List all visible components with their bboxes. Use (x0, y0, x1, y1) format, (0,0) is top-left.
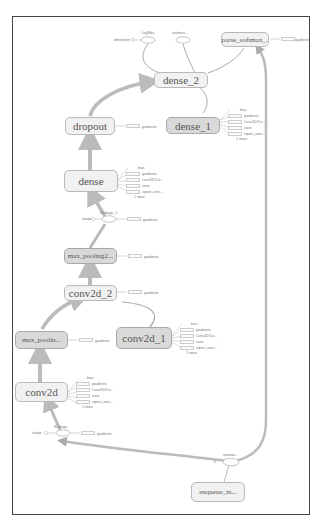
reshape-1-gradients: gradients (143, 218, 157, 222)
random-port: 0 (214, 460, 216, 464)
conv2d-1-report: report_unin... (196, 346, 217, 350)
dense-save: save (142, 184, 149, 188)
dropout-gradients: gradients (142, 125, 156, 129)
reshape-1-label: Reshape_1 (100, 210, 118, 215)
reshape-1-shape: shape (82, 217, 92, 221)
max-pooling-gradients: gradients (95, 339, 109, 343)
conv2d-save: save (92, 394, 99, 398)
node-dropout[interactable]: dropout (65, 117, 115, 135)
softmax-label: softmax... (172, 30, 188, 35)
reshape-1-op[interactable] (102, 216, 116, 222)
reshape-label: Reshape (54, 424, 68, 429)
node-dense-1[interactable]: dense_1 (166, 117, 220, 134)
conv2d-1-gradients: gradients (196, 328, 210, 332)
dense-1-save: save (244, 126, 251, 130)
dense-1-report: report_unin... (244, 132, 265, 136)
conv2d-1-bias: bias (191, 322, 197, 326)
dense-gradients: gradients (142, 172, 156, 176)
conv2d-report: report_unin... (92, 400, 113, 404)
node-conv2d-1[interactable]: conv2d_1 (116, 327, 172, 349)
random-label: random... (223, 452, 238, 457)
dimension-label: dimension (114, 38, 130, 42)
random-op[interactable] (223, 458, 239, 466)
node-conv2d[interactable]: conv2d (15, 382, 68, 402)
dense-1-conv: Conv2D/Co... (244, 120, 265, 124)
reshape-gradients: gradients (97, 432, 111, 436)
conv2d-conv: Conv2D/Co... (92, 388, 113, 392)
conv2d-1-more: 1 more (186, 351, 197, 355)
dense-1-more: 1 more (236, 137, 247, 141)
argmax-label: ArgMax (141, 30, 154, 35)
dense-1-gradients: gradients (244, 114, 258, 118)
node-dense[interactable]: dense (64, 170, 118, 192)
conv2d-1-conv: Conv2D/Co... (196, 334, 217, 338)
node-conv2d-2[interactable]: conv2d_2 (64, 285, 117, 301)
dense-report: report_unin... (142, 190, 163, 194)
reshape-op[interactable] (56, 430, 70, 436)
dense-conv: Conv2D/Co... (142, 178, 163, 182)
conv2d-gradients: gradients (92, 382, 106, 386)
dense-1-bias: bias (240, 108, 246, 112)
node-dense-2[interactable]: dense_2 (154, 72, 208, 88)
conv2d-more: 1 more (82, 405, 93, 409)
conv2d-bias: bias (87, 376, 93, 380)
reshape-shape: shape (32, 431, 42, 435)
argmax-op[interactable] (141, 37, 155, 43)
node-max-pooling2[interactable]: max_pooling2... (64, 248, 117, 264)
conv2d-1-save: save (196, 340, 203, 344)
dense-more: 1 more (134, 195, 145, 199)
softmax-op[interactable] (176, 37, 190, 43)
node-max-pooling[interactable]: max_poolin... (15, 331, 68, 349)
sparse-softmax-gradients: gradients (295, 38, 309, 42)
conv2d-2-gradients: gradients (144, 291, 158, 295)
node-sparse-softmax[interactable]: sparse_softmax_... (221, 32, 269, 47)
max-pooling2-gradients: gradients (144, 255, 158, 259)
node-enqueue[interactable]: enqueue_in... (191, 482, 245, 502)
dense-bias: bias (138, 166, 144, 170)
